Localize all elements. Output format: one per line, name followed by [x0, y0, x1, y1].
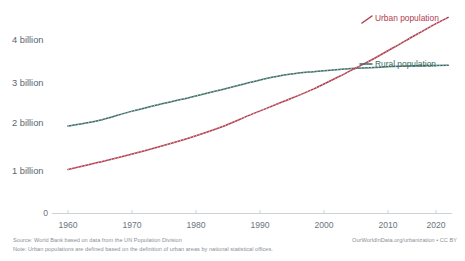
urban-legend-label: Urban population [375, 13, 439, 23]
series-group [68, 17, 448, 169]
urban-population-line-dashes [68, 17, 448, 169]
x-tick-label-1970: 1970 [122, 220, 141, 230]
rural-legend-label: Rural population [375, 59, 436, 69]
x-tick-label-2010: 2010 [378, 220, 397, 230]
y-tick-label-1b: 1 billion [12, 166, 44, 176]
x-tick-label-2000: 2000 [314, 220, 333, 230]
x-axis-ticks [68, 210, 436, 214]
x-tick-label-2020: 2020 [426, 220, 445, 230]
y-tick-label-2b: 2 billion [12, 118, 44, 128]
footer-credit-text[interactable]: OurWorldInData.org/urbanization • CC BY [352, 237, 457, 243]
population-line-chart: 4 billion 3 billion 2 billion 1 billion … [0, 0, 465, 261]
legend-urban[interactable]: Urban population [362, 13, 439, 23]
footer-source-text: Source: World Bank based on data from th… [13, 237, 182, 243]
y-tick-label-zero: 0 [43, 208, 48, 218]
x-tick-label-1980: 1980 [186, 220, 205, 230]
rural-population-line [68, 65, 448, 126]
chart-footer: Source: World Bank based on data from th… [0, 234, 465, 261]
y-tick-label-4b: 4 billion [12, 35, 44, 45]
footer-note-text: Note: Urban populations are defined base… [13, 246, 273, 252]
urban-population-line [68, 17, 448, 169]
x-tick-label-1990: 1990 [250, 220, 269, 230]
urban-legend-swatch-icon [362, 16, 372, 23]
chart-canvas: 4 billion 3 billion 2 billion 1 billion … [0, 0, 465, 261]
y-tick-label-3b: 3 billion [12, 78, 44, 88]
rural-population-line-dashes [68, 65, 448, 126]
x-tick-label-1960: 1960 [58, 220, 77, 230]
